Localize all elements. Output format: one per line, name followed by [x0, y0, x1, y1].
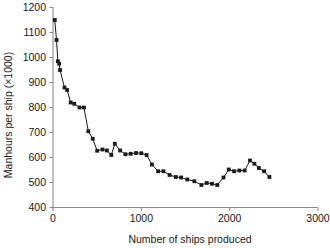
data-point-marker	[156, 169, 160, 173]
data-point-marker	[86, 129, 90, 133]
data-point-marker	[227, 168, 231, 172]
data-point-marker	[82, 106, 86, 110]
data-point-marker	[210, 182, 214, 186]
data-point-marker	[162, 169, 166, 173]
data-point-marker	[113, 142, 117, 146]
y-axis-title: Manhours per ship (×1000)	[2, 52, 14, 178]
data-point-marker	[53, 18, 57, 22]
data-point-marker	[248, 159, 252, 163]
data-point-marker	[58, 68, 62, 72]
data-point-marker	[262, 169, 266, 173]
data-point-marker	[109, 153, 113, 157]
y-axis-tick-labels: 400500600700800900100011001200	[23, 1, 47, 213]
data-point-marker	[237, 169, 241, 173]
y-tick-label: 700	[28, 126, 46, 138]
chart-figure: 400500600700800900100011001200 010002000…	[0, 0, 330, 248]
data-point-marker	[174, 175, 178, 179]
data-point-marker	[95, 149, 99, 153]
data-point-marker	[200, 183, 204, 187]
data-point-marker	[129, 152, 133, 156]
x-axis-tick-labels: 0100020003000	[50, 212, 330, 224]
data-point-marker	[257, 166, 261, 170]
x-tick-label: 2000	[218, 212, 242, 224]
y-tick-label: 1000	[23, 51, 47, 63]
data-point-marker	[253, 162, 257, 166]
manhours-per-ship-line-chart: 400500600700800900100011001200 010002000…	[0, 0, 330, 248]
x-axis-title: Number of ships produced	[128, 233, 251, 245]
y-tick-label: 1100	[23, 26, 46, 38]
data-point-marker	[215, 183, 219, 187]
data-point-marker	[78, 106, 82, 110]
data-point-marker	[101, 148, 105, 152]
data-point-marker	[118, 149, 122, 153]
x-tick-label: 1000	[130, 212, 154, 224]
data-point-marker	[145, 153, 149, 157]
data-point-marker	[139, 151, 143, 155]
y-tick-label: 800	[28, 101, 46, 113]
data-point-marker	[168, 173, 172, 177]
data-point-marker	[91, 137, 95, 141]
data-point-marker	[57, 62, 61, 66]
series-markers-manhours	[53, 18, 271, 187]
x-tick-label: 3000	[306, 212, 330, 224]
data-point-marker	[55, 38, 59, 42]
data-point-marker	[150, 163, 154, 167]
x-tick-label: 0	[50, 212, 56, 224]
y-tick-label: 400	[28, 201, 46, 213]
data-point-marker	[268, 175, 272, 179]
data-point-marker	[243, 169, 247, 173]
data-point-marker	[185, 178, 189, 182]
data-point-marker	[179, 176, 183, 180]
series-line-manhours	[55, 20, 270, 185]
data-point-marker	[72, 102, 76, 106]
y-tick-label: 500	[28, 176, 46, 188]
y-tick-label: 900	[28, 76, 46, 88]
y-tick-label: 600	[28, 151, 46, 163]
data-point-marker	[192, 179, 196, 183]
data-point-marker	[222, 176, 226, 180]
data-point-marker	[205, 181, 209, 185]
data-point-marker	[232, 169, 236, 173]
y-tick-label: 1200	[23, 1, 47, 13]
data-point-marker	[124, 152, 128, 156]
data-point-marker	[134, 151, 138, 155]
data-point-marker	[105, 149, 109, 153]
data-point-marker	[65, 88, 69, 92]
data-point-marker	[69, 101, 73, 105]
